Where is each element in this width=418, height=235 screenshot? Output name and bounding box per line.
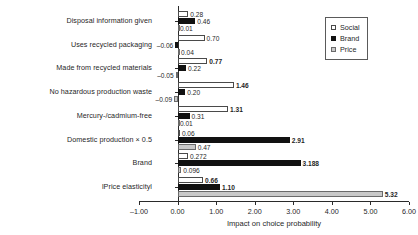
bar-value-label: 0.096	[183, 167, 200, 174]
bar-brand	[178, 65, 186, 71]
bar-brand	[178, 160, 301, 166]
plot-area: –1.000.001.002.003.004.005.006.000.280.4…	[139, 6, 409, 202]
bar-value-label: 0.22	[188, 65, 201, 72]
bar-social	[178, 106, 229, 112]
x-axis-tick	[255, 202, 256, 205]
x-axis-tick-label: 3.00	[286, 208, 300, 216]
bar-value-label: 0.31	[192, 113, 205, 120]
x-axis-tick-label: 0.00	[171, 208, 185, 216]
x-axis-line	[139, 201, 409, 202]
x-axis-tick-label: 4.00	[325, 208, 339, 216]
bar-value-label: 0.47	[198, 144, 211, 151]
x-axis-tick	[216, 202, 217, 205]
bar-brand	[178, 18, 196, 24]
x-axis-tick	[139, 202, 140, 205]
bar-chart: Disposal information givenUses recycled …	[0, 0, 418, 235]
x-axis-tick-label: 6.00	[402, 208, 416, 216]
legend-item-social: Social	[331, 22, 360, 33]
bar-value-label: 1.46	[236, 82, 249, 89]
bar-brand	[178, 113, 190, 119]
bar-value-label: 0.04	[181, 49, 194, 56]
bar-price	[176, 72, 178, 78]
bar-value-label: –0.09	[156, 96, 173, 103]
bar-price	[178, 167, 182, 173]
bar-social	[178, 177, 203, 183]
bar-value-label: 0.77	[209, 58, 222, 65]
x-axis-tick-label: –1.00	[130, 208, 148, 216]
legend-swatch-brand-icon	[331, 36, 336, 41]
x-axis-tick	[409, 202, 410, 205]
bar-brand	[175, 42, 177, 48]
x-axis-title: Impact on choice probability	[139, 219, 409, 228]
bar-brand	[178, 137, 290, 143]
category-label: No hazardous production waste	[49, 88, 152, 96]
category-label: Made from recycled materials	[56, 64, 152, 72]
legend-label: Brand	[340, 35, 359, 43]
bar-social	[178, 130, 180, 136]
bar-value-label: 0.272	[190, 153, 207, 160]
bar-value-label: 0.20	[187, 89, 200, 96]
bar-price	[178, 49, 180, 55]
x-axis-tick	[293, 202, 294, 205]
bar-value-label: –0.06	[157, 42, 174, 49]
bar-value-label: 5.32	[385, 191, 398, 198]
bar-value-label: 1.31	[230, 106, 243, 113]
legend-label: Price	[340, 46, 356, 54]
bar-social	[178, 82, 234, 88]
bar-price	[178, 191, 383, 197]
x-axis-tick-label: 5.00	[363, 208, 377, 216]
x-axis-tick	[370, 202, 371, 205]
legend-item-brand: Brand	[331, 33, 360, 44]
bar-social	[178, 58, 208, 64]
bar-value-label: 1.10	[222, 184, 235, 191]
legend-label: Social	[340, 24, 360, 32]
category-axis-labels: Disposal information givenUses recycled …	[0, 0, 158, 205]
bar-social	[178, 11, 189, 17]
x-axis-tick	[178, 202, 179, 205]
x-axis-tick	[332, 202, 333, 205]
bar-value-label: 2.91	[292, 137, 305, 144]
legend-swatch-social-icon	[331, 25, 336, 30]
bar-value-label: 0.70	[207, 35, 220, 42]
bar-value-label: 3.188	[303, 160, 320, 167]
bar-social	[178, 35, 205, 41]
bar-value-label: 0.01	[180, 120, 193, 127]
bar-brand	[178, 89, 186, 95]
bar-value-label: 0.46	[197, 18, 210, 25]
legend-swatch-price-icon	[331, 47, 336, 52]
chart-legend: SocialBrandPrice	[325, 17, 368, 60]
bar-brand	[178, 184, 220, 190]
bar-price	[174, 96, 177, 102]
x-axis-tick-label: 2.00	[248, 208, 262, 216]
legend-item-price: Price	[331, 44, 360, 55]
bar-value-label: 0.66	[205, 177, 218, 184]
bar-value-label: –0.05	[157, 72, 174, 79]
bar-value-label: 0.01	[180, 25, 193, 32]
bar-social	[178, 153, 188, 159]
x-axis-tick-label: 1.00	[209, 208, 223, 216]
bar-price	[178, 144, 196, 150]
